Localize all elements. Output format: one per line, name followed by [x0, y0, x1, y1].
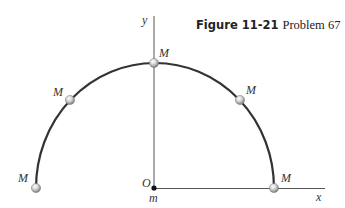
semicircle-arc	[36, 63, 274, 188]
mass-label-45: M	[246, 84, 256, 96]
mass-label-135: M	[53, 86, 63, 98]
semicircle-mass-diagram: Figure 11-21Problem 67 y x O m M M M M M	[0, 0, 345, 208]
mass-bead-180	[31, 183, 40, 192]
mass-bead-135	[65, 95, 74, 104]
y-axis-label: y	[142, 14, 147, 26]
figure-caption: Figure 11-21Problem 67	[196, 18, 340, 33]
mass-bead-0	[269, 183, 278, 192]
mass-bead-45	[235, 95, 244, 104]
origin-mass-dot	[151, 185, 156, 190]
origin-mass-label: m	[149, 192, 158, 204]
x-axis-label: x	[316, 191, 321, 203]
problem-number: Problem 67	[282, 18, 340, 32]
mass-label-90: M	[159, 47, 169, 59]
mass-bead-90	[149, 58, 158, 67]
mass-label-180: M	[18, 172, 28, 184]
figure-number: Figure 11-21	[196, 18, 278, 32]
mass-label-0: M	[281, 172, 291, 184]
origin-label: O	[142, 177, 151, 189]
